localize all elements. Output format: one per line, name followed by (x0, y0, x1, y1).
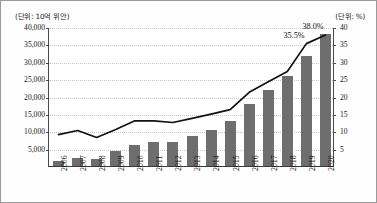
left-axis-tick: 35,000 (4, 41, 45, 49)
line-path (59, 35, 326, 138)
line-series (49, 28, 335, 167)
right-axis-tick: 20 (340, 94, 364, 102)
data-label: 35.5% (283, 31, 304, 40)
x-axis-tick: 2007 (80, 155, 88, 171)
plot-area (48, 28, 334, 167)
left-axis-tick: 30,000 (4, 59, 45, 67)
x-axis-tick: 2014 (213, 155, 221, 171)
x-axis-tick: 2011 (156, 156, 164, 171)
x-axis-tick: 2006 (61, 155, 69, 171)
right-axis-unit-label: (단위: %) (335, 11, 365, 21)
right-axis-tick: 10 (340, 128, 364, 136)
right-axis-tick: 30 (340, 59, 364, 67)
left-axis-tick: 25,000 (4, 76, 45, 84)
chart-frame: (단위: 10억 위안) (단위: %) 5,00010,00015,00020… (0, 0, 377, 203)
right-axis-tick: 40 (340, 24, 364, 32)
x-axis-tick: 2015 (233, 155, 241, 171)
x-axis-tick: 2017 (271, 155, 279, 171)
data-label: 38.0% (302, 22, 323, 31)
x-axis-tick: 2008 (99, 155, 107, 171)
right-axis-tick: 15 (340, 111, 364, 119)
x-axis-tick: 2013 (194, 155, 202, 171)
left-axis-unit-label: (단위: 10억 위안) (15, 11, 69, 21)
left-axis-tick: 10,000 (4, 128, 45, 136)
x-axis-tick: 2016 (252, 155, 260, 171)
x-axis-tick: 2020 (328, 155, 336, 171)
left-axis-tick: 5,000 (4, 146, 45, 154)
left-axis-tick: 40,000 (4, 24, 45, 32)
right-axis-tick: 25 (340, 76, 364, 84)
right-axis-tick: 5 (340, 146, 364, 154)
x-axis-tick: 2009 (118, 155, 126, 171)
left-axis-tick: 15,000 (4, 111, 45, 119)
x-axis-tick: 2012 (175, 155, 183, 171)
left-axis-tick: 20,000 (4, 94, 45, 102)
x-axis-tick: 2010 (137, 155, 145, 171)
x-axis-tick: 2018 (290, 155, 298, 171)
right-axis-tick: 35 (340, 41, 364, 49)
x-axis-tick: 2019 (309, 155, 317, 171)
